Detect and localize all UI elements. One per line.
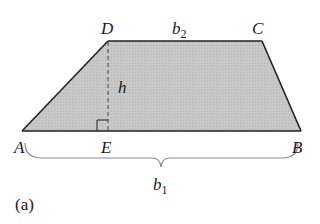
vertex-label-a: A <box>13 138 25 157</box>
vertex-label-d: D <box>100 19 114 38</box>
vertex-label-b: B <box>292 138 303 157</box>
vertex-label-e: E <box>100 138 112 157</box>
vertex-label-c: C <box>252 19 264 38</box>
top-base-label: b2 <box>172 19 187 41</box>
trapezoid-region <box>22 41 301 131</box>
trapezoid-diagram: D C A E B h b2 b1 (a) <box>0 0 320 224</box>
brace-b1 <box>25 143 298 167</box>
height-label: h <box>118 78 127 97</box>
figure-caption: (a) <box>15 195 34 214</box>
bottom-base-label: b1 <box>153 175 168 197</box>
